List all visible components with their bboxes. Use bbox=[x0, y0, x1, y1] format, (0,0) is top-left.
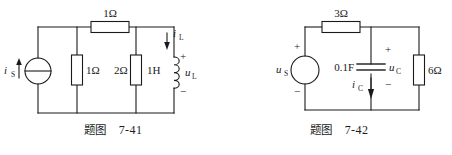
source-polarity-plus: + bbox=[294, 40, 300, 52]
inductor-polarity-minus: − bbox=[180, 85, 186, 97]
resistor-shunt-2-body bbox=[131, 55, 142, 85]
inductor-voltage-label: u bbox=[185, 66, 191, 78]
circuit-diagram-7-41: 1Ω 1Ω 2Ω 1H i S i L u L + − bbox=[0, 0, 226, 125]
caption-label: 题图 bbox=[310, 123, 333, 137]
source-current-label: i bbox=[4, 64, 7, 76]
capacitor-polarity-minus: − bbox=[385, 78, 391, 90]
resistor-top-label: 3Ω bbox=[334, 7, 348, 19]
caption-number: 7-42 bbox=[345, 123, 369, 137]
resistor-shunt-1-label: 1Ω bbox=[86, 64, 100, 76]
source-current-arrow-head bbox=[16, 58, 22, 65]
inductor-label: 1H bbox=[147, 64, 161, 76]
source-voltage-label-sub: S bbox=[284, 69, 288, 78]
figure-caption-7-41: 题图 7-41 bbox=[0, 121, 226, 138]
resistor-top-body bbox=[322, 22, 360, 33]
source-voltage-label: u bbox=[276, 63, 282, 75]
voltage-source-symbol bbox=[291, 56, 319, 84]
caption-gap bbox=[333, 123, 345, 137]
resistor-top-body bbox=[91, 22, 129, 33]
capacitor-current-label: i bbox=[352, 78, 355, 90]
source-current-label-sub: S bbox=[11, 70, 15, 79]
inductor-current-label: i bbox=[173, 27, 176, 39]
inductor-polarity-plus: + bbox=[180, 50, 186, 62]
capacitor-polarity-plus: + bbox=[385, 43, 391, 55]
capacitor-voltage-label: u bbox=[389, 61, 395, 73]
figure-7-41: 1Ω 1Ω 2Ω 1H i S i L u L + − 题图 7-41 bbox=[0, 0, 226, 155]
resistor-top-label: 1Ω bbox=[103, 7, 117, 19]
resistor-shunt-1-body bbox=[72, 55, 83, 85]
inductor-current-arrow-head bbox=[164, 42, 170, 50]
capacitor-voltage-label-sub: C bbox=[396, 67, 401, 76]
caption-number: 7-41 bbox=[119, 123, 143, 137]
figure-sheet: 1Ω 1Ω 2Ω 1H i S i L u L + − 题图 7-41 bbox=[0, 0, 452, 155]
capacitor-current-arrow-head bbox=[368, 89, 374, 99]
caption-label: 题图 bbox=[84, 123, 107, 137]
resistor-shunt-label: 6Ω bbox=[428, 64, 442, 76]
inductor-voltage-label-sub: L bbox=[192, 72, 197, 81]
figure-caption-7-42: 题图 7-42 bbox=[226, 121, 452, 138]
figure-7-42: 3Ω 0.1F 6Ω u S + − u C + − i C 题图 7-42 bbox=[226, 0, 452, 155]
caption-gap bbox=[107, 123, 119, 137]
inductor-coil bbox=[174, 57, 179, 88]
resistor-shunt-body bbox=[414, 55, 425, 85]
capacitor-current-label-sub: C bbox=[358, 84, 363, 93]
capacitor-label: 0.1F bbox=[334, 61, 354, 73]
circuit-diagram-7-42: 3Ω 0.1F 6Ω u S + − u C + − i C bbox=[226, 0, 452, 125]
resistor-shunt-2-label: 2Ω bbox=[114, 64, 128, 76]
inductor-current-label-sub: L bbox=[179, 33, 184, 42]
source-polarity-minus: − bbox=[294, 85, 300, 97]
